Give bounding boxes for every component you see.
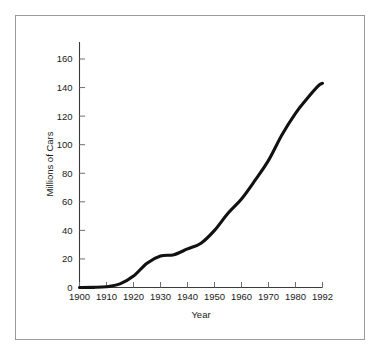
y-axis-tick-labels: 020406080100120140160 (57, 53, 73, 293)
y-axis-tick-label: 140 (57, 82, 73, 93)
x-axis-tick-label: 1920 (123, 291, 144, 302)
x-axis-tick-label: 1980 (285, 291, 306, 302)
y-axis-tick-label: 120 (57, 111, 73, 122)
figure-root: 020406080100120140160 190019101920193019… (0, 0, 385, 355)
x-axis-tick-label: 1900 (69, 291, 90, 302)
x-axis-tick-labels: 1900191019201930194019501960197019801992 (69, 291, 333, 302)
axes-group (80, 42, 323, 288)
x-axis-title: Year (191, 309, 210, 320)
y-axis-tick-label: 40 (62, 225, 73, 236)
y-axis-tick-label: 100 (57, 139, 73, 150)
data-series-line (80, 83, 323, 287)
x-axis-tick-label: 1992 (312, 291, 333, 302)
y-axis-tick-label: 20 (62, 253, 73, 264)
y-axis-title: Millions of Cars (44, 131, 55, 196)
x-axis-tick-label: 1950 (204, 291, 225, 302)
y-axis-tick-label: 60 (62, 196, 73, 207)
line-chart: 020406080100120140160 190019101920193019… (0, 0, 385, 355)
x-axis-tick-label: 1960 (231, 291, 252, 302)
y-axis-tick-label: 80 (62, 168, 73, 179)
x-axis-tick-label: 1940 (177, 291, 198, 302)
x-axis-tick-label: 1910 (96, 291, 117, 302)
y-axis-tick-label: 160 (57, 53, 73, 64)
x-axis-tick-label: 1970 (258, 291, 279, 302)
x-axis-tick-label: 1930 (150, 291, 171, 302)
y-axis-ticks (80, 59, 86, 288)
